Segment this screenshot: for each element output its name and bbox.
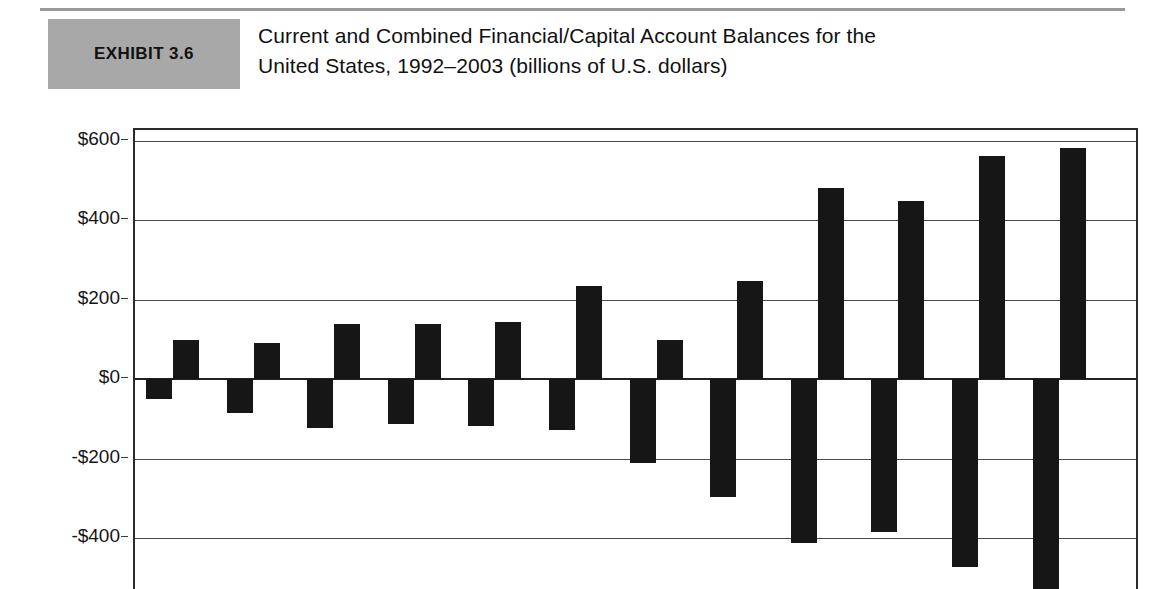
bar-financial-capital-account-2002 xyxy=(979,156,1005,379)
plot-area xyxy=(133,128,1138,589)
bar-financial-capital-account-2001 xyxy=(898,201,924,380)
y-axis-tick-label: $200 xyxy=(0,287,120,309)
bar-current-account-1995 xyxy=(388,379,414,423)
bar-current-account-1993 xyxy=(227,379,253,413)
bar-financial-capital-account-1995 xyxy=(415,324,441,380)
bar-current-account-2003 xyxy=(1033,379,1059,589)
exhibit-title: Current and Combined Financial/Capital A… xyxy=(258,21,1118,81)
y-axis-tick-label: -$200 xyxy=(0,446,120,468)
bar-current-account-1999 xyxy=(710,379,736,497)
bar-financial-capital-account-1994 xyxy=(334,324,360,379)
gridline xyxy=(135,141,1136,142)
bar-financial-capital-account-2003 xyxy=(1060,148,1086,379)
bar-current-account-2000 xyxy=(791,379,817,543)
bar-financial-capital-account-1993 xyxy=(254,343,280,380)
bar-financial-capital-account-1997 xyxy=(576,286,602,379)
y-axis-tick-mark xyxy=(121,377,128,378)
y-axis-tick-label: $400 xyxy=(0,207,120,229)
y-axis-tick-mark xyxy=(121,298,128,299)
y-axis-tick-mark xyxy=(121,457,128,458)
bar-current-account-1998 xyxy=(630,379,656,462)
exhibit-title-line-1: Current and Combined Financial/Capital A… xyxy=(258,21,1118,51)
exhibit-title-line-2: United States, 1992–2003 (billions of U.… xyxy=(258,51,1118,81)
bar-current-account-1994 xyxy=(307,379,333,427)
bar-financial-capital-account-2000 xyxy=(818,188,844,379)
y-axis: $600$400$200$0-$200-$400 xyxy=(40,128,128,589)
header-divider-rule xyxy=(40,8,1125,11)
bar-current-account-1996 xyxy=(468,379,494,426)
y-axis-tick-mark xyxy=(121,536,128,537)
y-axis-tick-label: $600 xyxy=(0,128,120,150)
bar-current-account-2001 xyxy=(871,379,897,532)
y-axis-tick-mark xyxy=(121,139,128,140)
gridline xyxy=(135,538,1136,539)
bar-current-account-1997 xyxy=(549,379,575,430)
bar-financial-capital-account-1996 xyxy=(495,322,521,380)
bar-financial-capital-account-1998 xyxy=(657,340,683,380)
bar-financial-capital-account-1999 xyxy=(737,281,763,379)
y-axis-tick-label: -$400 xyxy=(0,525,120,547)
bar-financial-capital-account-1992 xyxy=(173,340,199,379)
bar-chart: $600$400$200$0-$200-$400 xyxy=(40,110,1120,589)
exhibit-header: EXHIBIT 3.6 Current and Combined Financi… xyxy=(48,19,1118,91)
exhibit-number-badge: EXHIBIT 3.6 xyxy=(48,19,240,89)
bar-current-account-1992 xyxy=(146,379,172,399)
y-axis-tick-label: $0 xyxy=(0,366,120,388)
y-axis-tick-mark xyxy=(121,218,128,219)
bar-current-account-2002 xyxy=(952,379,978,567)
exhibit-number-label: EXHIBIT 3.6 xyxy=(94,44,194,64)
